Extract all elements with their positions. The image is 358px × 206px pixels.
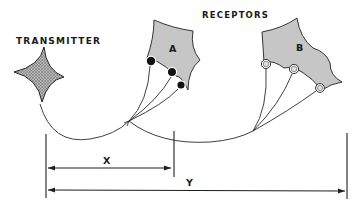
transmitter-star-shape <box>14 47 64 102</box>
receptors-label: RECEPTORS <box>202 10 269 20</box>
branch-a-2 <box>129 77 171 121</box>
distance-y-label: Y <box>185 177 194 188</box>
branch-b-2 <box>253 74 292 131</box>
transmitter-node <box>14 47 64 102</box>
receptor-a-terminal-1 <box>146 56 156 66</box>
transmitter-label: TRANSMITTER <box>16 36 101 46</box>
branch-b-1 <box>253 69 266 131</box>
receptor-a-terminal-2 <box>167 67 176 76</box>
transmitter-receptor-diagram: TRANSMITTER RECEPTORS A B <box>0 0 358 206</box>
distance-y-arrow <box>48 190 345 191</box>
receptor-b-terminal-3 <box>316 84 325 93</box>
receptor-b-shape <box>262 18 342 90</box>
receptor-b-node: B <box>261 18 342 92</box>
dimension-lines: X Y <box>46 131 347 199</box>
receptor-a-shape <box>147 20 200 90</box>
receptor-b-terminal-2 <box>289 64 298 73</box>
path-transmitter-to-a <box>40 104 129 140</box>
receptor-a-node: A <box>146 20 200 90</box>
receptor-b-label: B <box>296 42 304 53</box>
receptor-a-terminal-3 <box>177 81 185 89</box>
distance-x-label: X <box>103 155 112 166</box>
path-a-to-b <box>129 121 253 142</box>
receptor-b-terminal-1 <box>261 59 270 68</box>
branch-a-3 <box>129 89 178 121</box>
receptor-a-label: A <box>169 43 178 54</box>
signal-paths <box>40 66 316 142</box>
